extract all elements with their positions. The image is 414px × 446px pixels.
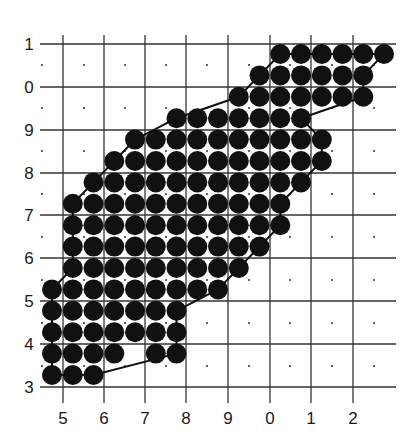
y-axis-label: 7 [22, 207, 36, 224]
x-axis-label: 8 [176, 410, 196, 427]
filled-circle [167, 108, 187, 128]
filled-circle [270, 108, 290, 128]
grid-dot [331, 365, 333, 367]
filled-circle [208, 194, 228, 214]
filled-circle [291, 151, 311, 171]
filled-circle [146, 344, 166, 364]
grid-dot [165, 64, 167, 66]
grid-dot [41, 107, 43, 109]
filled-circle [208, 130, 228, 150]
filled-circle [208, 279, 228, 299]
filled-circle [167, 151, 187, 171]
x-axis-label: 1 [301, 410, 321, 427]
grid-dot [289, 150, 291, 152]
filled-circle [270, 65, 290, 85]
grid-dot [289, 236, 291, 238]
grid-dot [289, 64, 291, 66]
filled-circle [208, 237, 228, 257]
filled-circle [104, 344, 124, 364]
filled-circle [229, 215, 249, 235]
grid-dot [373, 107, 375, 109]
filled-circle [167, 194, 187, 214]
filled-circle [146, 258, 166, 278]
grid-dot [289, 322, 291, 324]
filled-circle [104, 258, 124, 278]
filled-circle [42, 322, 62, 342]
filled-circle [146, 130, 166, 150]
filled-circle [63, 194, 83, 214]
filled-circle [187, 258, 207, 278]
grid-dot [373, 279, 375, 281]
grid-dot [248, 365, 250, 367]
grid-dot [331, 322, 333, 324]
grid-dot [248, 279, 250, 281]
filled-circle [291, 172, 311, 192]
filled-circle [63, 301, 83, 321]
grid-dot [41, 279, 43, 281]
x-axis-label: 0 [260, 410, 280, 427]
y-axis-label: 1 [22, 36, 36, 53]
grid-dot [124, 193, 126, 195]
filled-circle [104, 301, 124, 321]
filled-circle [312, 151, 332, 171]
filled-circle [270, 215, 290, 235]
grid-dot [206, 64, 208, 66]
filled-circle [229, 151, 249, 171]
filled-circle [353, 87, 373, 107]
grid-dot [41, 64, 43, 66]
grid-dot [206, 193, 208, 195]
y-axis-label: 3 [22, 379, 36, 396]
filled-circle [208, 258, 228, 278]
filled-circle [125, 301, 145, 321]
filled-circle [167, 130, 187, 150]
filled-circle [104, 194, 124, 214]
filled-circle [167, 344, 187, 364]
filled-circle [250, 151, 270, 171]
filled-circle [374, 44, 394, 64]
filled-circle [208, 215, 228, 235]
grid-dot [248, 236, 250, 238]
filled-circle [270, 87, 290, 107]
filled-circle [104, 322, 124, 342]
filled-circle [84, 301, 104, 321]
filled-circle [42, 301, 62, 321]
grid-dot [41, 365, 43, 367]
filled-circle [146, 279, 166, 299]
dot-grid-diagram: 1 0 9 8 7 6 5 4 3 5 6 7 8 9 0 1 2 [0, 0, 414, 446]
filled-circle [187, 237, 207, 257]
grid-dot [41, 150, 43, 152]
filled-circle [42, 279, 62, 299]
filled-circle [63, 344, 83, 364]
filled-circle [125, 151, 145, 171]
y-axis-label: 5 [22, 293, 36, 310]
filled-circle [333, 65, 353, 85]
grid-dot [83, 236, 85, 238]
filled-circle [208, 108, 228, 128]
filled-circle [84, 215, 104, 235]
grid-dot [165, 365, 167, 367]
grid-dot [41, 236, 43, 238]
filled-circle [146, 237, 166, 257]
filled-circle [250, 237, 270, 257]
filled-circle [312, 87, 332, 107]
filled-circle [167, 301, 187, 321]
grid-dot [248, 107, 250, 109]
filled-circle [229, 258, 249, 278]
filled-circle [250, 215, 270, 235]
filled-circle [104, 237, 124, 257]
grid-dot [124, 279, 126, 281]
filled-circle [229, 194, 249, 214]
filled-circle [167, 215, 187, 235]
grid-dot [83, 150, 85, 152]
grid-dot [165, 150, 167, 152]
grid-dot [248, 64, 250, 66]
filled-circle [187, 172, 207, 192]
grid-dot [373, 322, 375, 324]
grid-dot [41, 193, 43, 195]
filled-circle [146, 194, 166, 214]
filled-circle [125, 130, 145, 150]
grid-dot [331, 279, 333, 281]
filled-circle [187, 108, 207, 128]
x-axis-label: 9 [218, 410, 238, 427]
filled-circle [63, 322, 83, 342]
